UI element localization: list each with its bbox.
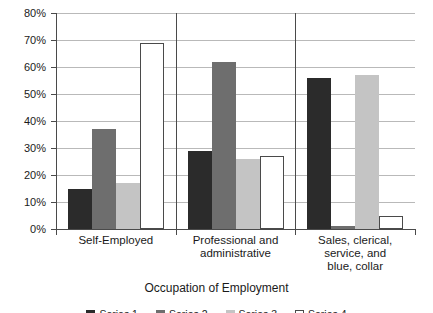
bar — [236, 159, 260, 229]
x-axis-category-label: Sales, clerical,service, andblue, collar — [295, 234, 415, 273]
bar — [212, 62, 236, 229]
bar-group — [68, 13, 164, 229]
bar — [331, 226, 355, 229]
category-label-line: blue, collar — [327, 260, 383, 272]
legend-swatch — [86, 310, 95, 313]
y-axis-tick-label: 70% — [0, 35, 46, 46]
bar — [355, 75, 379, 229]
bar — [188, 151, 212, 229]
x-axis-end-tick — [56, 229, 57, 235]
category-separator — [176, 13, 178, 235]
y-axis-tick-label: 20% — [0, 170, 46, 181]
bar — [140, 43, 164, 229]
category-separator — [295, 13, 297, 235]
category-label-line: Self-Employed — [78, 234, 153, 246]
bar — [68, 189, 92, 230]
y-axis-tick-label: 40% — [0, 116, 46, 127]
y-axis-tick-label: 60% — [0, 62, 46, 73]
y-axis-tick-label: 80% — [0, 8, 46, 19]
category-label-line: Professional and — [193, 234, 279, 246]
bar-group — [188, 13, 284, 229]
bar — [379, 216, 403, 230]
legend-item: Series 4 — [295, 308, 347, 313]
legend-label: Series 2 — [169, 308, 208, 313]
y-axis-tick-label: 10% — [0, 197, 46, 208]
bar — [260, 156, 284, 229]
legend-swatch — [226, 310, 235, 313]
legend-clipped: Series 1Series 2Series 3Series 4 — [0, 303, 433, 313]
y-axis-tick-label: 0% — [0, 224, 46, 235]
bar — [307, 78, 331, 229]
bar-group — [307, 13, 403, 229]
y-axis-tick-label: 50% — [0, 89, 46, 100]
category-label-line: service, and — [324, 247, 386, 259]
legend-label: Series 1 — [99, 308, 138, 313]
legend-swatch — [295, 310, 304, 313]
y-axis-line — [56, 13, 57, 230]
category-label-line: Sales, clerical, — [318, 234, 392, 246]
y-axis-tick-label: 30% — [0, 143, 46, 154]
bar-chart: 0%10%20%30%40%50%60%70%80% Self-Employed… — [0, 0, 433, 313]
legend-item: Series 3 — [226, 308, 278, 313]
bar — [116, 183, 140, 229]
legend-item: Series 1 — [86, 308, 138, 313]
legend-item: Series 2 — [156, 308, 208, 313]
x-axis-category-label: Professional andadministrative — [176, 234, 296, 260]
x-axis-end-tick — [415, 229, 416, 235]
legend-label: Series 4 — [308, 308, 347, 313]
legend-row: Series 1Series 2Series 3Series 4 — [0, 303, 433, 313]
bar — [92, 129, 116, 229]
x-axis-category-label: Self-Employed — [56, 234, 176, 247]
x-axis-line — [56, 229, 415, 230]
legend-swatch — [156, 310, 165, 313]
category-label-line: administrative — [200, 247, 271, 259]
legend-label: Series 3 — [239, 308, 278, 313]
x-axis-title: Occupation of Employment — [0, 281, 433, 295]
